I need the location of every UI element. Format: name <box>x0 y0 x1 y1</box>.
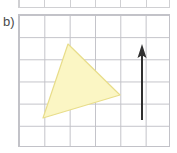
partial-grid-above <box>18 0 170 8</box>
plot-grid <box>18 14 170 147</box>
panel-label: b) <box>3 15 15 29</box>
figure-panel-b: b) <box>0 0 177 153</box>
